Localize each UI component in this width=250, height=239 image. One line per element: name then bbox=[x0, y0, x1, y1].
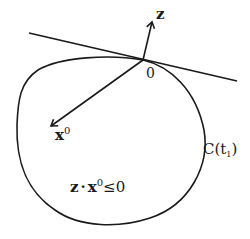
x0-vector-label: x0 bbox=[55, 128, 70, 143]
curve-label-close: ) bbox=[231, 140, 237, 158]
diagram-graphics bbox=[0, 0, 250, 239]
inequality-z: z bbox=[70, 178, 79, 196]
z-vector-arrow bbox=[143, 22, 152, 60]
z-vector-label: z bbox=[156, 7, 165, 22]
inequality-x: x bbox=[88, 178, 97, 196]
z-label-text: z bbox=[156, 5, 165, 23]
diagram-canvas: z 0 x0 C(t1) z·x0≤0 bbox=[0, 0, 250, 239]
curve-label-name: C(t bbox=[203, 140, 226, 158]
x0-vector-arrow bbox=[51, 60, 143, 126]
x0-label-sup: 0 bbox=[64, 125, 70, 136]
origin-label: 0 bbox=[146, 66, 155, 80]
inequality-relation: ≤0 bbox=[103, 178, 125, 196]
tangent-line bbox=[29, 33, 237, 81]
inequality-dot: · bbox=[81, 178, 86, 196]
x0-label-base: x bbox=[55, 126, 64, 144]
origin-label-text: 0 bbox=[146, 65, 155, 81]
curve-label: C(t1) bbox=[203, 142, 237, 157]
inequality-label: z·x0≤0 bbox=[70, 180, 125, 195]
